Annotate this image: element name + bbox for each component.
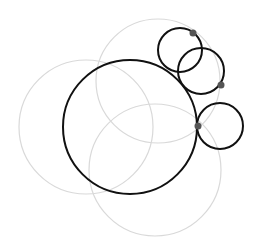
- guide-circle-bottom-right: [89, 104, 221, 236]
- point-p2: [218, 82, 225, 89]
- tangent-points: [190, 30, 225, 130]
- guide-circle-top: [96, 19, 220, 143]
- circle-diagram: [0, 0, 261, 248]
- point-p1: [190, 30, 197, 37]
- circle-large: [63, 60, 197, 194]
- guide-circle-left: [19, 60, 153, 194]
- main-circles: [63, 28, 243, 194]
- point-p3: [195, 123, 202, 130]
